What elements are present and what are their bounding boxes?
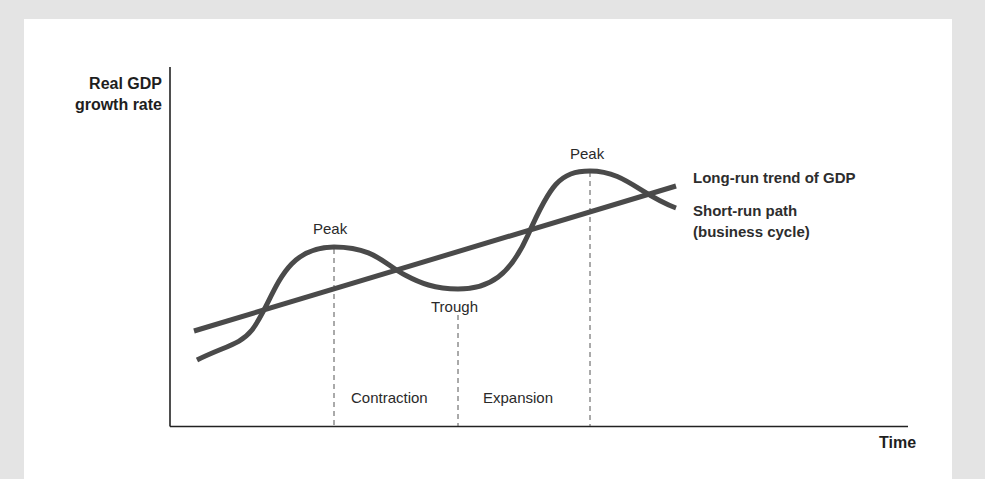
y-axis-label-line1: Real GDP [75,73,162,94]
y-axis-label-line2: growth rate [75,94,162,115]
peak1-label: Peak [313,220,347,237]
legend-cycle-line1: Short-run path [693,200,810,221]
peak2-label: Peak [570,145,604,162]
short-run-path-curve [197,171,676,360]
trough-label: Trough [431,298,478,315]
x-axis-label: Time [879,434,916,452]
expansion-label: Expansion [483,389,553,406]
legend-cycle-label: Short-run path (business cycle) [693,200,810,242]
legend-cycle-line2: (business cycle) [693,221,810,242]
legend-trend-label: Long-run trend of GDP [693,167,855,188]
y-axis-label: Real GDP growth rate [75,73,162,115]
contraction-label: Contraction [351,389,428,406]
